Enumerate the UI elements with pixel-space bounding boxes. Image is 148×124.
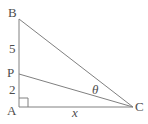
vertex-label-a: A [7, 104, 16, 117]
vertex-label-c: C [135, 100, 144, 113]
segment-length-ac: x [72, 106, 78, 119]
right-angle-marker-icon [19, 98, 28, 107]
geometry-figure: B P A C 5 2 x θ [0, 0, 148, 124]
segment-bc [19, 19, 133, 107]
vertex-label-p: P [7, 66, 14, 79]
segment-length-pa: 2 [9, 83, 16, 96]
segment-pc [19, 74, 133, 107]
angle-label-theta: θ [92, 83, 98, 96]
segment-length-bp: 5 [9, 42, 16, 55]
vertex-label-b: B [8, 6, 17, 19]
